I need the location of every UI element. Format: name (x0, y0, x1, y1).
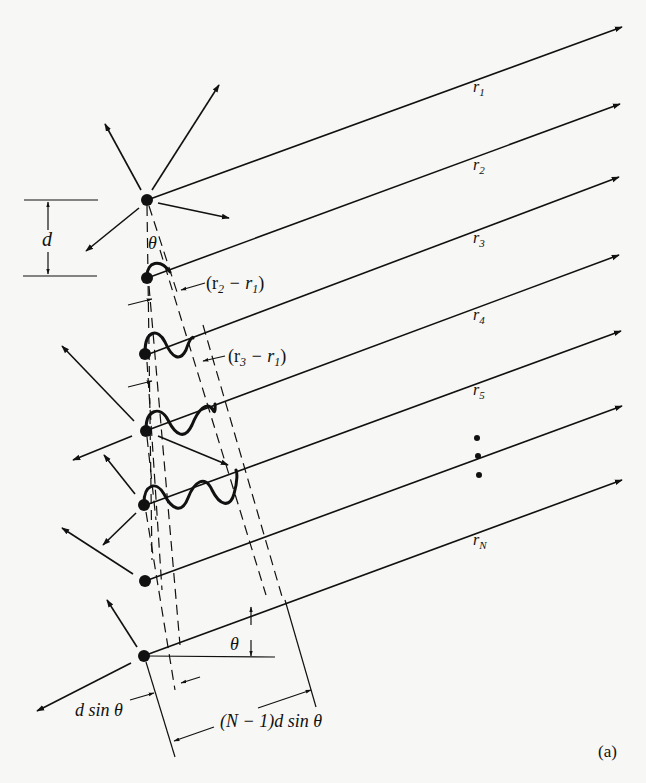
element-6 (139, 575, 151, 587)
svg-text:r3: r3 (473, 229, 485, 249)
theta-top-label: θ (148, 233, 157, 253)
array-diagram: d θ (r2 − r1) (r3 − r1) r1 r2 r3 r4 r5 r… (0, 0, 646, 783)
theta-bottom-label: θ (230, 634, 239, 654)
svg-text:r2: r2 (473, 156, 485, 176)
path-diff-r2-r1: (r2 − r1) (206, 273, 264, 296)
dsin-label: d sin θ (75, 700, 123, 720)
svg-text:r5: r5 (473, 381, 485, 401)
svg-text:rN: rN (473, 531, 487, 551)
spacing-dimension (23, 200, 98, 276)
ellipsis-dots (474, 435, 482, 478)
radiation-arrows (37, 85, 229, 711)
ray-r1 (150, 27, 622, 199)
ray-r2 (150, 104, 620, 277)
element-1 (141, 194, 153, 206)
ray-r6 (148, 406, 622, 580)
svg-text:r4: r4 (473, 306, 485, 326)
rays (146, 27, 622, 655)
path-diff-r3-r1: (r3 − r1) (228, 346, 286, 369)
ray-r5 (146, 331, 621, 505)
total-path-label: (N − 1)d sin θ (220, 711, 322, 732)
ray-r3 (149, 177, 619, 354)
ray-labels: r1 r2 r3 r4 r5 rN (473, 78, 487, 551)
panel-label: (a) (598, 742, 617, 761)
spacing-label: d (42, 228, 53, 250)
ray-rN (146, 480, 622, 655)
svg-text:r1: r1 (473, 78, 485, 98)
